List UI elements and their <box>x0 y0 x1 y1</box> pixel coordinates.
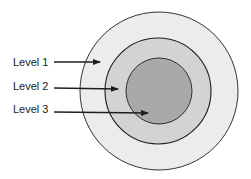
level-3-circle <box>126 58 192 124</box>
level-2-arrow-icon <box>54 88 118 89</box>
diagram-svg: Level 1 Level 2 Level 3 <box>0 0 251 179</box>
concentric-levels-diagram: Level 1 Level 2 Level 3 <box>0 0 251 179</box>
level-1-label: Level 1 <box>13 56 48 68</box>
level-3-arrow-icon <box>54 112 148 113</box>
level-2-label: Level 2 <box>13 80 48 92</box>
level-3-label: Level 3 <box>13 103 48 115</box>
